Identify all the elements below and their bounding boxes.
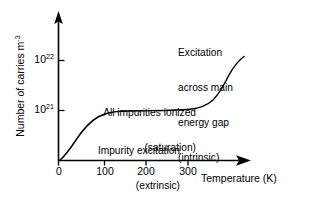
annotation-extrinsic-line-1: Impurity excitation bbox=[64, 145, 180, 157]
y-tick-label-1e21-exponent: 21 bbox=[46, 102, 54, 111]
y-axis-ticks bbox=[59, 61, 65, 111]
y-axis-title-exponent: -3 bbox=[13, 35, 22, 41]
y-tick-label-1e22-mantissa: 10 bbox=[34, 53, 46, 65]
y-axis-title: Number of carries m-3 bbox=[15, 21, 27, 151]
y-tick-label-1e22-exponent: 22 bbox=[46, 52, 54, 61]
annotation-saturation-line-1: All impurities ionized bbox=[84, 107, 196, 119]
annotation-intrinsic-line-1: Excitation bbox=[178, 47, 233, 59]
annotation-extrinsic: Impurity excitation (extrinsic) bbox=[64, 122, 180, 197]
y-tick-label-1e21-mantissa: 10 bbox=[34, 103, 46, 115]
y-tick-label-1e22: 1022 bbox=[20, 54, 54, 66]
y-tick-label-1e21: 1021 bbox=[20, 104, 54, 116]
annotation-extrinsic-line-2: (extrinsic) bbox=[64, 180, 180, 192]
carrier-concentration-chart: Number of carries m-3 Temperature (K) 10… bbox=[0, 0, 309, 197]
